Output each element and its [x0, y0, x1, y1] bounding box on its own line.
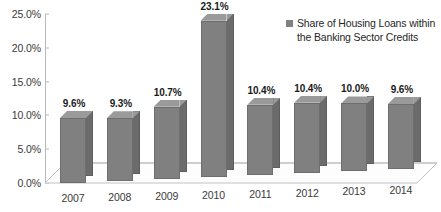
bar-column — [201, 14, 227, 177]
bar-top-face — [247, 98, 273, 105]
x-axis-tick-label: 2014 — [379, 184, 423, 196]
bar-front-face — [60, 118, 86, 183]
legend-swatch-icon — [286, 20, 293, 27]
x-axis-tick-label: 2008 — [98, 191, 142, 203]
x-axis-tick-label: 2007 — [51, 192, 95, 204]
bar-front-face — [154, 107, 180, 179]
bar-side-face — [180, 100, 187, 172]
bar-top-face — [154, 100, 180, 107]
bar-top-face — [388, 97, 414, 104]
x-axis-tick-label: 2010 — [192, 189, 236, 201]
chart-legend: Share of Housing Loans within the Bankin… — [286, 17, 441, 44]
bar-value-label: 10.7% — [146, 87, 190, 98]
bar-side-face — [367, 96, 374, 164]
x-axis-tick-label: 2009 — [145, 190, 189, 202]
bar-value-label: 9.6% — [380, 84, 424, 95]
bar-chart: 0.0%5.0%10.0%15.0%20.0%25.0% 9.6%9.3%10.… — [0, 0, 441, 212]
bar-top-face — [341, 96, 367, 103]
bar-top-face — [294, 96, 320, 103]
bar-value-label: 9.6% — [52, 98, 96, 109]
bar-side-face — [86, 111, 93, 176]
bar-front-face — [294, 103, 320, 173]
bar-side-face — [133, 111, 140, 174]
bar-value-label: 10.4% — [239, 85, 283, 96]
bar-top-face — [60, 111, 86, 118]
legend-label: Share of Housing Loans within the Bankin… — [297, 17, 441, 44]
bar-value-label: 23.1% — [193, 1, 237, 12]
bar-column — [294, 96, 320, 173]
bar-front-face — [388, 104, 414, 169]
bar-value-label: 9.3% — [99, 98, 143, 109]
x-axis-tick-label: 2011 — [238, 188, 282, 200]
bar-front-face — [201, 21, 227, 177]
bar-column — [247, 98, 273, 175]
bar-front-face — [341, 103, 367, 171]
bar-column — [341, 96, 367, 171]
bar-value-label: 10.4% — [286, 83, 330, 94]
bar-column — [60, 111, 86, 183]
bar-value-label: 10.0% — [333, 83, 377, 94]
bar-side-face — [273, 98, 280, 168]
bar-top-face — [201, 14, 227, 21]
bar-column — [154, 100, 180, 179]
bar-side-face — [414, 97, 421, 162]
bar-column — [107, 111, 133, 181]
bar-front-face — [247, 105, 273, 175]
bar-column — [388, 97, 414, 169]
bar-top-face — [107, 111, 133, 118]
x-axis-tick-label: 2013 — [332, 185, 376, 197]
bar-front-face — [107, 118, 133, 181]
x-axis-tick-label: 2012 — [285, 187, 329, 199]
bar-side-face — [320, 96, 327, 166]
bar-side-face — [227, 14, 234, 170]
